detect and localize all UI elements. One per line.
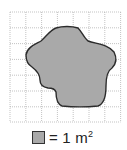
irregular-shape bbox=[26, 27, 116, 107]
legend-equals-text: = 1 m bbox=[49, 129, 88, 146]
legend-superscript: 2 bbox=[88, 129, 93, 139]
legend-label: = 1 m2 bbox=[49, 129, 93, 146]
area-grid-diagram bbox=[0, 0, 127, 125]
legend: = 1 m2 bbox=[32, 128, 93, 146]
unit-square-swatch bbox=[32, 131, 45, 144]
